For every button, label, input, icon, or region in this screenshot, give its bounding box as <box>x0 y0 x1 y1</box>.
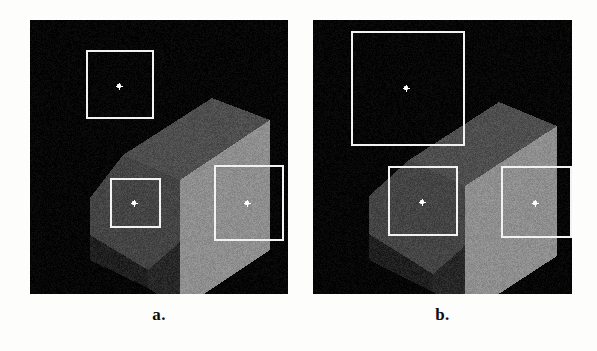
panel-a-marker-top-left <box>116 83 123 90</box>
panel-a-marker-right <box>244 200 251 207</box>
panel-a-marker-middle <box>131 200 138 207</box>
panel-b-caption: b. <box>313 305 572 325</box>
panel-b-marker-right <box>532 200 539 207</box>
panel-b-marker-middle <box>419 199 426 206</box>
panel-a-caption: a. <box>30 305 288 325</box>
panel-a-range-image <box>30 20 288 294</box>
figure-container: a. b. <box>0 0 597 351</box>
panel-a <box>30 20 288 294</box>
panel-b-marker-top-left <box>403 85 410 92</box>
